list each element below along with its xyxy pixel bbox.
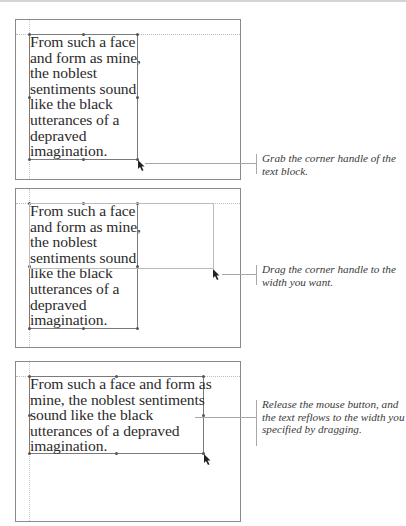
callout-bracket-2 xyxy=(256,265,257,285)
caption-step-3: Release the mouse button, and the text r… xyxy=(262,398,406,436)
callout-leader-3 xyxy=(195,417,256,418)
text-content: From such a face and form as mine, the n… xyxy=(30,376,212,454)
handle-top-middle[interactable] xyxy=(82,33,85,36)
callout-bracket-3 xyxy=(256,400,257,446)
callout-leader-1 xyxy=(145,163,256,164)
handle-bottom-right[interactable] xyxy=(136,327,139,330)
text-frame[interactable]: From such a face and form as mine, the n… xyxy=(29,34,138,160)
handle-top-left[interactable] xyxy=(28,33,31,36)
step-1-panel: From such a face and form as mine, the n… xyxy=(15,19,241,180)
caption-step-2: Drag the corner handle to the width you … xyxy=(262,263,406,288)
handle-bottom-middle[interactable] xyxy=(82,327,85,330)
drag-preview-outline xyxy=(29,203,214,269)
handle-bottom-left[interactable] xyxy=(28,452,31,455)
handle-bottom-middle[interactable] xyxy=(115,452,118,455)
handle-top-right[interactable] xyxy=(136,33,139,36)
handle-bottom-left[interactable] xyxy=(28,158,31,161)
callout-bracket-1 xyxy=(256,154,257,174)
text-content: From such a face and form as mine, the n… xyxy=(30,34,141,159)
callout-leader-2 xyxy=(222,274,256,275)
step-3-panel: From such a face and form as mine, the n… xyxy=(15,361,241,522)
caption-step-1: Grab the corner handle of the text block… xyxy=(262,152,406,177)
handle-middle-right[interactable] xyxy=(136,96,139,99)
handle-bottom-left[interactable] xyxy=(28,327,31,330)
top-rule xyxy=(0,0,406,2)
handle-middle-left[interactable] xyxy=(28,414,31,417)
step-2-panel: From such a face and form as mine, the n… xyxy=(15,188,241,348)
text-frame[interactable]: From such a face and form as mine, the n… xyxy=(29,376,204,454)
handle-bottom-middle[interactable] xyxy=(82,158,85,161)
handle-middle-left[interactable] xyxy=(28,96,31,99)
handle-top-middle[interactable] xyxy=(115,375,118,378)
handle-top-right[interactable] xyxy=(202,375,205,378)
handle-top-left[interactable] xyxy=(28,375,31,378)
